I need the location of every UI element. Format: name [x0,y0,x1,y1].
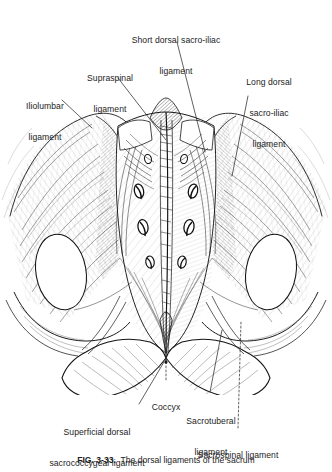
label-line: Long dorsal [226,77,312,87]
label-line: Iliolumbar [6,101,84,111]
figure-caption: FIG. 3-33. The dorsal ligaments of the s… [0,455,332,466]
label-line: Sacrotuberal [168,416,254,426]
sacrum-dorsal-surface [100,98,232,364]
label-line: ligament [6,132,84,142]
label-line: Superficial dorsal [22,427,172,437]
figure-number: FIG. 3-33. [77,455,116,465]
label-iliolumbar-ligament: Iliolumbar ligament [6,80,84,153]
label-line: Short dorsal sacro-iliac [106,35,246,45]
caption-text: The dorsal ligaments of the sacrum [121,455,255,465]
label-line: sacro-iliac [226,108,312,118]
label-line: ligament [226,139,312,149]
label-long-dorsal-sacro-iliac-ligament: Long dorsal sacro-iliac ligament [226,56,312,160]
